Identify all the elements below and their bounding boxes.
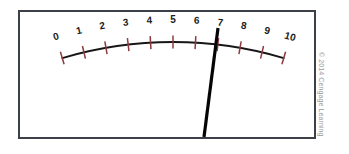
tick-mark	[195, 36, 196, 49]
tick-label-4: 4	[146, 15, 153, 26]
tick-label-8: 8	[240, 20, 248, 32]
tick-label-5: 5	[170, 14, 176, 25]
tick-mark	[127, 38, 128, 51]
meter-figure: 012345678910 © 2014 Cengage Learning	[0, 0, 349, 154]
tick-label-9: 9	[263, 24, 271, 36]
tick-mark	[150, 36, 151, 49]
tick-label-1: 1	[75, 24, 83, 36]
tick-label-2: 2	[98, 20, 106, 32]
tick-label-7: 7	[217, 16, 224, 28]
tick-label-0: 0	[52, 30, 61, 42]
tick-label-3: 3	[122, 16, 129, 28]
copyright-notice: © 2014 Cengage Learning	[315, 52, 327, 138]
tick-labels-group: 012345678910	[52, 14, 298, 43]
tick-label-10: 10	[283, 30, 297, 44]
meter-diagram: 012345678910	[0, 0, 349, 154]
tick-label-6: 6	[194, 15, 201, 26]
